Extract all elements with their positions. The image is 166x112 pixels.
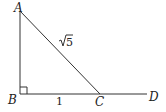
length-ac-label: 5 (59, 35, 73, 49)
length-bc-label: 1 (56, 95, 63, 108)
sqrt-radicand: 5 (66, 36, 73, 49)
segment-ac (20, 11, 100, 94)
label-a: A (13, 1, 23, 15)
right-angle-marker (20, 87, 27, 94)
label-c: C (95, 95, 104, 109)
label-b: B (7, 93, 17, 107)
label-d: D (148, 90, 159, 104)
geometry-diagram: A B C D 1 5 (0, 0, 166, 112)
